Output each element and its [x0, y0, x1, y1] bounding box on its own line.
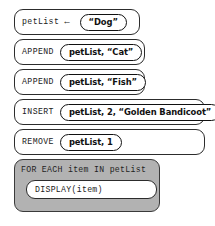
argument-text: “Dog” [89, 18, 118, 26]
statement-keyword: REMOVE [22, 138, 54, 146]
argument-pill[interactable]: petList, “Cat” [60, 44, 142, 61]
statement-keyword: INSERT [22, 108, 54, 116]
statement-keyword: petList [22, 18, 59, 26]
assignment-arrow-icon: ← [64, 18, 69, 27]
statement-keyword: APPEND [22, 48, 54, 56]
argument-text: petList, “Cat” [69, 48, 133, 56]
argument-text: petList, 1 [69, 138, 113, 146]
statement-row-append-fish[interactable]: APPEND petList, “Fish” [14, 69, 145, 95]
loop-body-statement[interactable]: DISPLAY(item) [26, 180, 157, 199]
argument-text: petList, “Fish” [69, 78, 137, 86]
argument-pill[interactable]: “Dog” [80, 14, 127, 31]
statement-row-assign[interactable]: petList ← “Dog” [14, 9, 140, 35]
statement-keyword: APPEND [22, 78, 54, 86]
argument-text: petList, 2, “Golden Bandicoot” [69, 108, 211, 116]
statement-row-append-cat[interactable]: APPEND petList, “Cat” [14, 39, 145, 65]
argument-pill[interactable]: petList, 1 [60, 134, 122, 151]
for-each-loop-block[interactable]: FOR EACH item IN petList DISPLAY(item) [14, 159, 160, 212]
statement-row-remove[interactable]: REMOVE petList, 1 [14, 129, 205, 155]
argument-pill[interactable]: petList, 2, “Golden Bandicoot” [60, 104, 215, 121]
for-each-loop-header: FOR EACH item IN petList [21, 166, 159, 174]
pseudocode-block-diagram: petList ← “Dog” APPEND petList, “Cat” AP… [0, 0, 215, 226]
statement-row-insert[interactable]: INSERT petList, 2, “Golden Bandicoot” [14, 99, 205, 125]
display-statement-text: DISPLAY(item) [35, 186, 103, 194]
argument-pill[interactable]: petList, “Fish” [60, 74, 146, 91]
